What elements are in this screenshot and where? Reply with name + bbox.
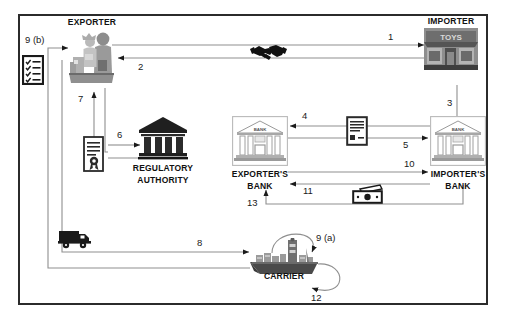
toys-storefront-icon: TOYS xyxy=(424,28,478,74)
exporters-bank-icon: BANK xyxy=(232,116,288,170)
step-label-4: 4 xyxy=(302,111,307,122)
step-label-11: 11 xyxy=(303,186,313,197)
document-icon xyxy=(346,116,368,150)
regulatory-authority-label-line2: AUTHORITY xyxy=(122,176,204,186)
exporter-label: EXPORTER xyxy=(62,18,122,28)
handshake-icon xyxy=(250,42,288,66)
bank-sign-text: BANK xyxy=(452,127,466,132)
step-label-12: 12 xyxy=(311,293,322,304)
step-label-10: 10 xyxy=(404,159,415,170)
step-label-9b: 9 (b) xyxy=(25,35,45,46)
step-label-2: 2 xyxy=(138,62,143,73)
certificate-document-icon xyxy=(82,136,106,178)
government-building-icon xyxy=(138,116,188,164)
importer-label: IMPORTER xyxy=(418,17,484,27)
step-label-8: 8 xyxy=(197,238,202,249)
importers-bank-label-line1: IMPORTER'S xyxy=(420,170,496,180)
banknote-cash-icon xyxy=(352,184,386,208)
carrier-label: CARRIER xyxy=(252,272,316,282)
step-label-13: 13 xyxy=(247,198,258,209)
bank-sign-text: BANK xyxy=(254,127,268,132)
step-label-6: 6 xyxy=(117,130,122,141)
exporters-bank-label-line2: BANK xyxy=(222,182,298,192)
importers-bank-label-line2: BANK xyxy=(420,182,496,192)
factory-workers-icon xyxy=(68,30,116,92)
delivery-truck-icon xyxy=(58,228,94,254)
step-label-7: 7 xyxy=(78,94,83,105)
step-label-1: 1 xyxy=(388,32,393,43)
exporters-bank-label-line1: EXPORTER'S xyxy=(222,170,298,180)
checklist-clipboard-icon xyxy=(22,55,44,89)
regulatory-authority-label-line1: REGULATORY xyxy=(122,164,204,174)
step-label-5: 5 xyxy=(403,140,408,151)
diagram-canvas: EXPORTER TOYS xyxy=(0,0,507,322)
step-label-9a: 9 (a) xyxy=(316,233,336,244)
store-sign-text: TOYS xyxy=(440,33,462,42)
importers-bank-icon: BANK xyxy=(430,116,486,170)
step-label-3: 3 xyxy=(447,98,452,109)
